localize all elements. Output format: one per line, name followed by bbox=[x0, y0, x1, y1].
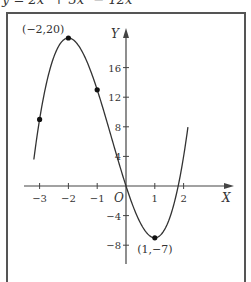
y-tick-label: 8 bbox=[115, 122, 121, 133]
y-axis-arrow-icon bbox=[123, 28, 129, 38]
x-tick-label: 2 bbox=[180, 193, 186, 204]
origin-label: O bbox=[114, 191, 124, 205]
data-point bbox=[66, 35, 71, 40]
points-layer: (−2,20)(1,−7) bbox=[22, 23, 172, 256]
x-axis-label: X bbox=[221, 191, 231, 205]
x-tick-label: −3 bbox=[32, 193, 47, 204]
data-point bbox=[37, 117, 42, 122]
x-tick-label: −1 bbox=[90, 193, 105, 204]
y-tick-label: −4 bbox=[106, 211, 121, 222]
axes: XYO−3−2−112161284−4−8 bbox=[24, 27, 234, 264]
y-tick-label: −8 bbox=[106, 240, 121, 251]
y-tick-label: 12 bbox=[108, 92, 121, 103]
x-tick-label: −2 bbox=[61, 193, 76, 204]
data-point bbox=[95, 87, 100, 92]
point-label: (−2,20) bbox=[22, 23, 64, 36]
x-axis-arrow-icon bbox=[224, 183, 234, 189]
point-label: (1,−7) bbox=[137, 243, 172, 256]
x-tick-label: 1 bbox=[152, 193, 158, 204]
data-point bbox=[152, 235, 157, 240]
y-tick-label: 16 bbox=[108, 63, 121, 74]
y-axis-label: Y bbox=[111, 27, 120, 41]
